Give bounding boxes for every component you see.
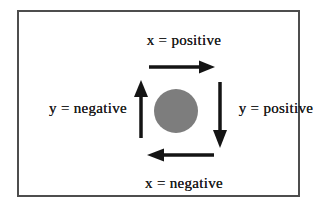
label-x-positive: x = positive xyxy=(129,33,239,48)
arrow-down-icon xyxy=(212,82,228,148)
center-circle xyxy=(154,89,198,133)
diagram-canvas: x = positive y = negative y = positive x… xyxy=(0,0,314,213)
arrow-up-icon xyxy=(133,80,149,138)
arrow-left-icon xyxy=(147,147,214,163)
arrow-right-icon xyxy=(149,59,215,75)
label-y-negative: y = negative xyxy=(45,101,131,116)
label-x-negative: x = negative xyxy=(131,176,237,191)
label-y-positive: y = positive xyxy=(235,101,314,116)
diagram-frame: x = positive y = negative y = positive x… xyxy=(17,10,300,197)
